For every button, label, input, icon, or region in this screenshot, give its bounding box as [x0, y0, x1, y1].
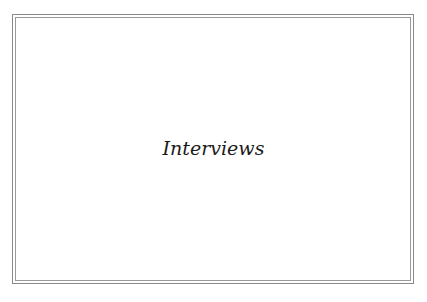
slide-title: Interviews — [0, 136, 427, 160]
slide: Interviews — [0, 0, 427, 302]
